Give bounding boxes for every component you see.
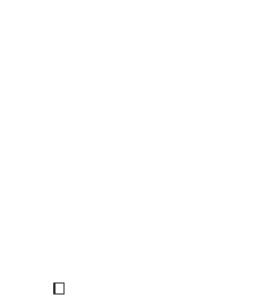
legend-depression-symbol-icon bbox=[54, 283, 64, 294]
histogram-figure bbox=[0, 0, 268, 298]
legend bbox=[54, 283, 64, 294]
